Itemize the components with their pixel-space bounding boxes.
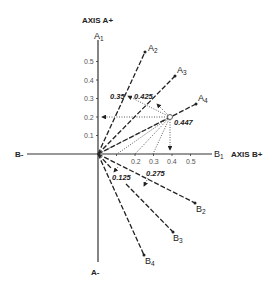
label-a1: A1 bbox=[94, 31, 104, 42]
b-tick-0.3: 0.3 bbox=[149, 158, 159, 165]
label-b4: B4 bbox=[145, 256, 155, 267]
axis-a-plus-label: AXIS A+ bbox=[82, 16, 113, 25]
value-0.275: 0.275 bbox=[146, 169, 166, 178]
vector-b3-inner bbox=[98, 154, 111, 168]
value-0.447: 0.447 bbox=[174, 118, 194, 127]
value-0.125: 0.125 bbox=[112, 173, 132, 182]
a-tick-0.1: 0.1 bbox=[84, 132, 94, 139]
a-tick-0.3: 0.3 bbox=[84, 95, 94, 102]
vector-b3 bbox=[126, 184, 173, 232]
a-tick-0.2: 0.2 bbox=[84, 114, 94, 121]
value-0.35: 0.35 bbox=[110, 92, 125, 101]
vector-b4 bbox=[98, 154, 144, 255]
axis-b-minus-label: B- bbox=[15, 150, 24, 159]
vector-a3 bbox=[98, 76, 175, 154]
label-b3: B3 bbox=[173, 233, 183, 244]
axis-b-plus-label: AXIS B+ bbox=[231, 150, 263, 159]
value-0.425: 0.425 bbox=[134, 92, 154, 101]
vector-a2 bbox=[98, 52, 145, 154]
b-tick-0.4: 0.4 bbox=[167, 158, 177, 165]
label-a3: A3 bbox=[177, 65, 187, 76]
a-tick-0.5: 0.5 bbox=[84, 58, 94, 65]
label-b1: B1 bbox=[214, 149, 224, 160]
label-b2: B2 bbox=[196, 204, 206, 215]
label-a2: A2 bbox=[148, 43, 158, 54]
label-a4: A4 bbox=[198, 93, 208, 104]
b-tick-0.2: 0.2 bbox=[131, 158, 141, 165]
a-tick-0.4: 0.4 bbox=[84, 77, 94, 84]
b-tick-0.5: 0.5 bbox=[186, 158, 196, 165]
vector-projection-diagram: AXIS A+ A- AXIS B+ B- A1 A2 A3 A4 B1 B2 … bbox=[0, 0, 273, 290]
projected-point bbox=[168, 115, 173, 120]
axis-a-minus-label: A- bbox=[91, 268, 100, 277]
